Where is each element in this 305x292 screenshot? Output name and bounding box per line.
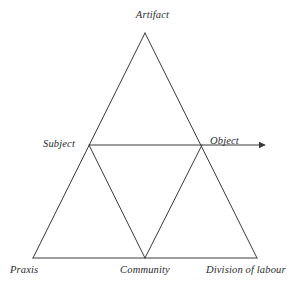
node-label-artifact: Artifact	[0, 9, 305, 21]
activity-theory-diagram: Artifact Subject Object Praxis Community…	[0, 0, 305, 292]
edge-object-community	[145, 145, 202, 258]
node-label-division-of-labour: Division of labour	[206, 264, 286, 276]
node-label-subject: Subject	[43, 138, 75, 150]
node-label-object: Object	[210, 135, 239, 147]
edge-subject-community	[89, 145, 145, 258]
